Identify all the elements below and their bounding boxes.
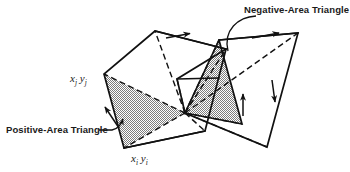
vertex-j-x-sub: j xyxy=(75,78,77,87)
inner-notch-edge-2 xyxy=(177,78,219,79)
vertex-i-y-sub: i xyxy=(146,158,148,167)
vertex-i-x-sub: i xyxy=(136,158,138,167)
vertex-label-i: xi yi xyxy=(131,152,148,167)
vertex-markers xyxy=(183,111,186,114)
vertex-j-y-sub: j xyxy=(85,78,87,87)
figure-svg xyxy=(0,0,350,172)
positive-area-triangle-label: Positive-Area Triangle xyxy=(6,124,108,135)
leader-line-negative xyxy=(227,16,256,51)
negative-area-triangle-label: Negative-Area Triangle xyxy=(244,4,349,15)
figure-canvas: Negative-Area Triangle Positive-Area Tri… xyxy=(0,0,350,172)
arrow-right-down xyxy=(272,80,275,102)
vertex-label-j: xj yj xyxy=(70,72,87,87)
